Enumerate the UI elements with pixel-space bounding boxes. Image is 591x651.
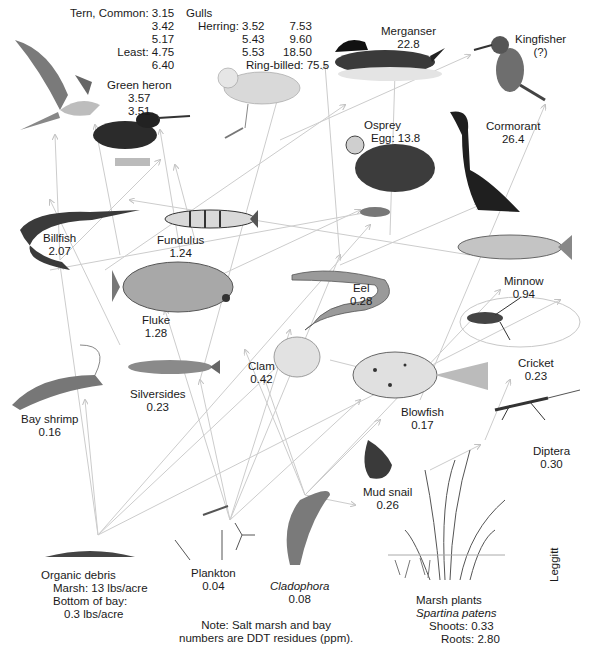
gulls-ring-billed: Ring-billed: 75.5 [246, 59, 329, 72]
cladophora-illustration [287, 491, 330, 565]
fundulus-illustration [165, 210, 258, 228]
bay-shrimp-illustration [12, 345, 103, 410]
clam-label: Clam 0.42 [248, 360, 275, 386]
blowfish-label: Blowfish 0.17 [401, 406, 444, 432]
organic-debris-label: Organic debris Marsh: 13 lbs/acre Bottom… [41, 569, 148, 621]
artist-credit: Leggitt [548, 547, 560, 582]
cricket-label: Cricket 0.23 [518, 357, 554, 383]
plankton-illustration [175, 506, 255, 560]
minnow-illustration [458, 235, 572, 260]
minnow-label: Minnow 0.94 [504, 275, 544, 301]
bay-shrimp-label: Bay shrimp 0.16 [21, 413, 79, 439]
kingfisher-label: Kingfisher (?) [515, 33, 566, 59]
food-web-diagram [0, 0, 591, 651]
osprey-label: Osprey Egg: 13.8 [364, 119, 420, 145]
plankton-label: Plankton 0.04 [191, 567, 236, 593]
silversides-illustration [128, 360, 220, 374]
diptera-label: Diptera 0.30 [533, 445, 570, 471]
blowfish-illustration [353, 352, 488, 398]
billfish-label: Billfish 2.07 [43, 232, 76, 258]
gull-illustration [218, 68, 300, 138]
fundulus-label: Fundulus 1.24 [157, 234, 204, 260]
mud-snail-illustration [364, 440, 392, 479]
diptera-illustration [495, 390, 580, 420]
fluke-illustration [112, 262, 233, 312]
cricket-illustration [460, 297, 580, 347]
fluke-label: Fluke 1.28 [142, 314, 170, 340]
cladophora-label: Cladophora 0.08 [270, 580, 329, 606]
mud-snail-label: Mud snail 0.26 [363, 486, 412, 512]
gulls-label: Gulls [186, 7, 212, 20]
marsh-plants-illustration [388, 450, 505, 580]
gulls-herring-col2: 7.53 9.60 18.50 [283, 20, 312, 59]
note: Note: Salt marsh and bay numbers are DDT… [179, 619, 353, 645]
silversides-label: Silversides 0.23 [130, 388, 186, 414]
green-heron-label: Green heron 3.57 3.51 [107, 79, 172, 118]
marsh-plants-label: Marsh plants Spartina patens Shoots: 0.3… [416, 594, 500, 646]
merganser-label: Merganser 22.8 [381, 25, 436, 51]
eel-illustration [292, 271, 390, 330]
clam-illustration [274, 337, 320, 377]
tern-label: Tern, Common: 3.15 3.42 5.17 Least: 4.75… [70, 7, 174, 72]
green-heron-illustration [93, 112, 190, 166]
gulls-herring-col1: Herring: 3.52 5.43 5.53 [198, 20, 265, 59]
cormorant-label: Cormorant 26.4 [486, 120, 540, 146]
organic-debris-illustration [45, 551, 135, 557]
eel-label: Eel 0.28 [350, 282, 372, 308]
tern-name-line: Tern, Common: 3.15 [70, 7, 174, 20]
